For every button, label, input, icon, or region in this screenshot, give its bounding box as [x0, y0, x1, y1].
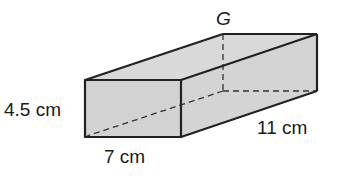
width-label: 7 cm: [104, 147, 145, 166]
rectangular-prism-diagram: [0, 0, 346, 177]
height-label: 4.5 cm: [4, 100, 61, 119]
front-face: [85, 80, 181, 137]
length-label: 11 cm: [257, 118, 307, 137]
vertex-label-g: G: [216, 9, 231, 28]
